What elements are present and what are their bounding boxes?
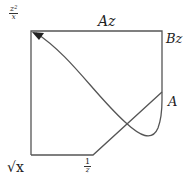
arrowhead-icon [32,32,44,40]
label-z2-over-x: z2 x [9,5,18,21]
label-1-over-z: 1 z [84,158,91,174]
label-a: A [168,95,177,108]
label-bz: Bz [166,32,182,45]
bottom-diagonal-path [31,92,162,155]
label-az: Az [98,14,116,28]
curve-path [36,33,162,136]
label-sqrt-x: √x [7,160,24,174]
